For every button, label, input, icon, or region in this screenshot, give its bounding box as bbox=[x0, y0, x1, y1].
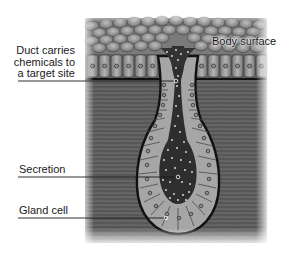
duct-label-line-1: Duct carries bbox=[10, 45, 75, 57]
secretion-label: Secretion bbox=[19, 164, 65, 176]
gland-cell-label: Gland cell bbox=[19, 205, 68, 217]
body-surface-label: Body surface bbox=[212, 35, 276, 47]
exocrine-gland-diagram: Duct carries chemicals to a target site … bbox=[0, 0, 290, 256]
duct-label: Duct carries chemicals to a target site bbox=[10, 45, 75, 80]
duct-label-line-3: a target site bbox=[10, 68, 75, 80]
